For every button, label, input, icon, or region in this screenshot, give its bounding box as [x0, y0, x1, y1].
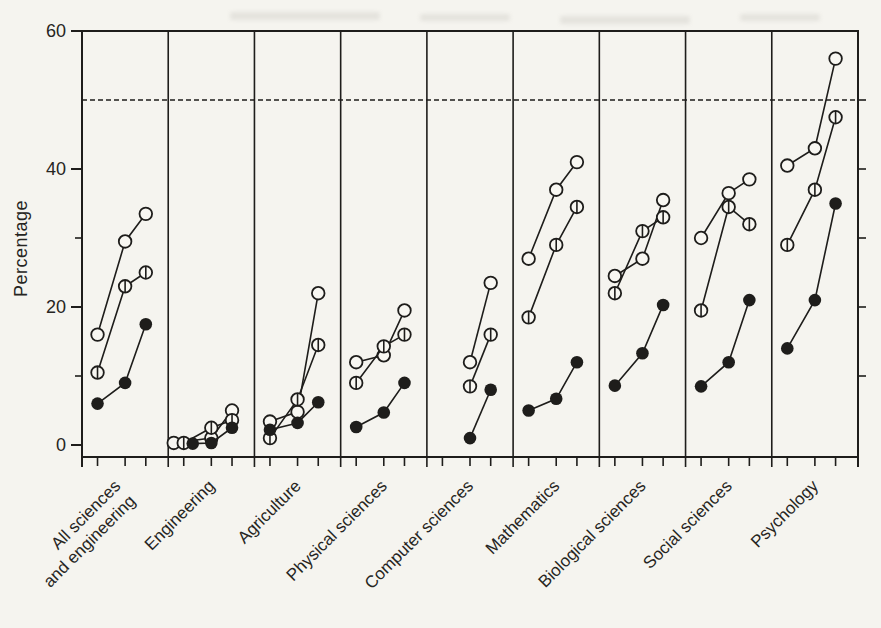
line-open [98, 214, 146, 335]
marker-open-circle [140, 208, 153, 221]
line-filled [470, 390, 491, 438]
marker-open-circle [809, 142, 822, 155]
marker-open-circle [350, 356, 363, 369]
line-filled [98, 324, 146, 403]
line-open [470, 283, 491, 362]
x-category-label: Mathematics [482, 476, 564, 558]
marker-filled-circle [226, 421, 239, 434]
marker-open-circle [119, 235, 132, 248]
y-tick-label: 20 [46, 297, 66, 317]
marker-open-circle [91, 328, 104, 341]
marker-filled-circle [119, 377, 132, 390]
marker-filled-circle [550, 392, 563, 405]
line-filled [701, 300, 749, 386]
marker-open-circle [522, 252, 535, 265]
marker-filled-circle [636, 347, 649, 360]
marker-filled-circle [377, 406, 390, 419]
y-tick-label: 40 [46, 159, 66, 179]
marker-open-circle [781, 159, 794, 172]
marker-open-circle [657, 194, 670, 207]
marker-filled-circle [350, 421, 363, 434]
marker-filled-circle [464, 432, 477, 445]
y-tick-label: 0 [56, 435, 66, 455]
x-category-label: Social sciences [640, 476, 736, 572]
marker-filled-circle [657, 299, 670, 312]
x-category-label: Psychology [747, 476, 822, 551]
marker-filled-circle [186, 437, 199, 450]
marker-filled-circle [398, 377, 411, 390]
marker-filled-circle [609, 379, 622, 392]
line-half [529, 207, 577, 317]
marker-filled-circle [571, 356, 584, 369]
marker-open-circle [743, 173, 756, 186]
line-filled [615, 305, 663, 386]
marker-open-circle [398, 304, 411, 317]
marker-filled-circle [743, 294, 756, 307]
marker-filled-circle [484, 384, 497, 397]
marker-open-circle [464, 356, 477, 369]
chart-canvas: 0204060All sciencesand engineeringEngine… [0, 0, 881, 628]
marker-filled-circle [809, 294, 822, 307]
line-filled [787, 204, 835, 349]
line-filled [356, 383, 404, 427]
marker-open-circle [571, 156, 584, 169]
marker-filled-circle [291, 417, 304, 430]
marker-open-circle [722, 187, 735, 200]
marker-filled-circle [829, 197, 842, 210]
x-category-label: Engineering [141, 476, 219, 554]
marker-filled-circle [522, 404, 535, 417]
marker-open-circle [695, 232, 708, 245]
marker-filled-circle [205, 437, 218, 450]
line-half [787, 117, 835, 245]
marker-filled-circle [781, 342, 794, 355]
x-category-label: Agriculture [234, 476, 305, 547]
marker-filled-circle [312, 396, 325, 409]
line-half [701, 207, 749, 311]
marker-filled-circle [140, 318, 153, 331]
marker-filled-circle [695, 380, 708, 393]
marker-filled-circle [722, 356, 735, 369]
marker-open-circle [829, 52, 842, 65]
figure: Percentage 0204060All sciencesand engine… [0, 0, 881, 628]
marker-open-circle [484, 277, 497, 290]
marker-open-circle [550, 183, 563, 196]
marker-filled-circle [91, 397, 104, 410]
marker-filled-circle [264, 424, 277, 437]
marker-open-circle [312, 287, 325, 300]
marker-open-circle [291, 406, 304, 419]
marker-open-circle [609, 270, 622, 283]
marker-open-circle [636, 252, 649, 265]
y-tick-label: 60 [46, 21, 66, 41]
